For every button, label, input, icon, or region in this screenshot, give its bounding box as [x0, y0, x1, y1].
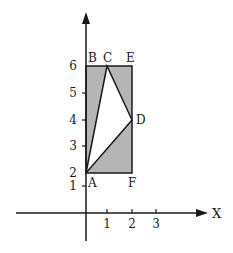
y-tick-label: 3: [69, 139, 77, 153]
y-tick-label: 5: [69, 86, 77, 100]
point-label-f: F: [128, 176, 136, 190]
x-tick-label: 3: [152, 217, 160, 231]
x-axis-arrow-icon: [196, 209, 208, 217]
y-tick-label: 4: [69, 113, 77, 127]
y-tick-label: 2: [69, 166, 77, 180]
x-tick-label: 1: [103, 217, 111, 231]
y-tick-label: 1: [69, 179, 77, 193]
point-label-c: C: [103, 51, 112, 65]
point-label-d: D: [136, 113, 146, 127]
y-tick-label: 6: [69, 59, 77, 73]
point-label-e: E: [126, 51, 135, 65]
x-axis-label: X: [212, 206, 222, 221]
point-label-a: A: [87, 176, 97, 190]
point-label-b: B: [88, 51, 97, 65]
y-axis-arrow-icon: [82, 12, 90, 24]
x-tick-label: 2: [128, 217, 136, 231]
coordinate-diagram: 1 2 3 X 1 2 3 4 5 6 B C E D A F: [0, 0, 233, 253]
